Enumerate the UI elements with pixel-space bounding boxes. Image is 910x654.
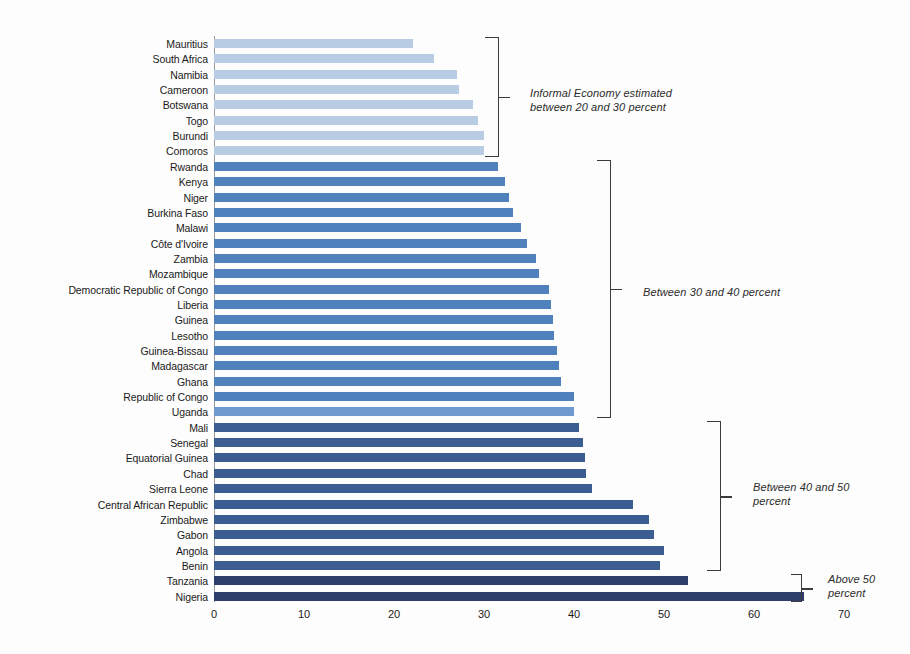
bar-row bbox=[214, 466, 844, 482]
bar-row bbox=[214, 266, 844, 282]
bar bbox=[214, 116, 478, 125]
bar-row bbox=[214, 159, 844, 175]
bar bbox=[214, 85, 459, 94]
bar bbox=[214, 208, 513, 217]
bar-row bbox=[214, 128, 844, 144]
category-label: Mali bbox=[0, 420, 208, 436]
bar-row bbox=[214, 450, 844, 466]
annotation-bracket bbox=[791, 574, 802, 602]
category-label: Zambia bbox=[0, 251, 208, 267]
category-label: Madagascar bbox=[0, 358, 208, 374]
annotation-bracket bbox=[485, 37, 499, 157]
bar-row bbox=[214, 174, 844, 190]
category-label: Uganda bbox=[0, 404, 208, 420]
category-label: Togo bbox=[0, 113, 208, 129]
category-label: Lesotho bbox=[0, 328, 208, 344]
bar-row bbox=[214, 51, 844, 67]
x-tick-label: 20 bbox=[388, 608, 400, 620]
bar-row bbox=[214, 205, 844, 221]
category-label: Cameroon bbox=[0, 82, 208, 98]
bar bbox=[214, 285, 549, 294]
category-label: Rwanda bbox=[0, 159, 208, 175]
bar-row bbox=[214, 558, 844, 574]
bar-row bbox=[214, 374, 844, 390]
category-label: Namibia bbox=[0, 67, 208, 83]
bar-chart-figure: MauritiusSouth AfricaNamibiaCameroonBots… bbox=[0, 0, 910, 654]
bar-row bbox=[214, 497, 844, 513]
bar bbox=[214, 469, 586, 478]
bar bbox=[214, 193, 509, 202]
annotation-text: Above 50 percent bbox=[828, 572, 875, 600]
bar bbox=[214, 546, 664, 555]
category-label: Angola bbox=[0, 543, 208, 559]
category-label: South Africa bbox=[0, 51, 208, 67]
category-label: Comoros bbox=[0, 143, 208, 159]
category-label: Mauritius bbox=[0, 36, 208, 52]
x-tick-label: 30 bbox=[478, 608, 490, 620]
bar bbox=[214, 500, 633, 509]
category-label: Ghana bbox=[0, 374, 208, 390]
bar bbox=[214, 515, 649, 524]
category-label: Guinea bbox=[0, 312, 208, 328]
annotation-bracket-stub bbox=[499, 97, 510, 99]
bar bbox=[214, 315, 553, 324]
category-label: Republic of Congo bbox=[0, 389, 208, 405]
bar bbox=[214, 254, 536, 263]
bar-row bbox=[214, 543, 844, 559]
bar bbox=[214, 530, 654, 539]
annotation-bracket bbox=[597, 160, 611, 418]
x-tick-label: 60 bbox=[748, 608, 760, 620]
annotation-text: Informal Economy estimated between 20 an… bbox=[530, 86, 672, 114]
bar-row bbox=[214, 343, 844, 359]
x-tick-label: 50 bbox=[658, 608, 670, 620]
category-label: Senegal bbox=[0, 435, 208, 451]
category-axis-labels: MauritiusSouth AfricaNamibiaCameroonBots… bbox=[0, 36, 208, 602]
bar-row bbox=[214, 143, 844, 159]
bar bbox=[214, 146, 484, 155]
category-label: Burundi bbox=[0, 128, 208, 144]
category-label: Côte d'Ivoire bbox=[0, 236, 208, 252]
bar-row bbox=[214, 251, 844, 267]
x-tick-label: 70 bbox=[838, 608, 850, 620]
bar-row bbox=[214, 404, 844, 420]
category-label: Botswana bbox=[0, 97, 208, 113]
bar bbox=[214, 576, 688, 585]
bar-row bbox=[214, 512, 844, 528]
bar bbox=[214, 346, 557, 355]
annotation-bracket-stub bbox=[802, 588, 813, 590]
annotation-bracket-stub bbox=[721, 496, 732, 498]
bar-row bbox=[214, 481, 844, 497]
bar bbox=[214, 561, 660, 570]
bar-row bbox=[214, 358, 844, 374]
bar-row bbox=[214, 82, 844, 98]
bar bbox=[214, 377, 561, 386]
bar bbox=[214, 223, 521, 232]
category-label: Burkina Faso bbox=[0, 205, 208, 221]
category-label: Zimbabwe bbox=[0, 512, 208, 528]
bar-row bbox=[214, 573, 844, 589]
category-label: Guinea-Bissau bbox=[0, 343, 208, 359]
bar-row bbox=[214, 420, 844, 436]
category-label: Chad bbox=[0, 466, 208, 482]
bar bbox=[214, 177, 505, 186]
category-label: Nigeria bbox=[0, 589, 208, 605]
bar bbox=[214, 239, 527, 248]
bar-row bbox=[214, 389, 844, 405]
bar bbox=[214, 484, 592, 493]
bar-row bbox=[214, 527, 844, 543]
bar bbox=[214, 592, 804, 601]
x-tick-label: 40 bbox=[568, 608, 580, 620]
category-label: Malawi bbox=[0, 220, 208, 236]
bar-row bbox=[214, 312, 844, 328]
category-label: Kenya bbox=[0, 174, 208, 190]
bar bbox=[214, 392, 574, 401]
category-label: Sierra Leone bbox=[0, 481, 208, 497]
bar bbox=[214, 331, 554, 340]
category-label: Liberia bbox=[0, 297, 208, 313]
bar-row bbox=[214, 435, 844, 451]
annotation-bracket bbox=[707, 421, 721, 572]
category-label: Democratic Republic of Congo bbox=[0, 282, 208, 298]
bar bbox=[214, 300, 551, 309]
bar bbox=[214, 453, 585, 462]
category-label: Central African Republic bbox=[0, 497, 208, 513]
